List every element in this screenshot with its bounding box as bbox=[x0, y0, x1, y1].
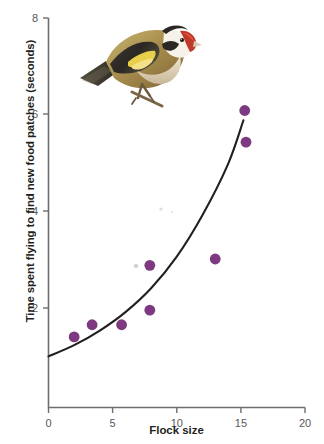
x-axis-title: Flock size bbox=[48, 424, 305, 436]
axis-lines bbox=[49, 18, 306, 408]
x-axis-ticks bbox=[49, 408, 306, 414]
scatter-plot: 8 6 4 2 0 5 10 15 20 bbox=[0, 0, 324, 444]
y-axis-title: Time spent flying to find new food patch… bbox=[24, 11, 36, 351]
data-point bbox=[210, 254, 221, 265]
data-point bbox=[144, 260, 155, 271]
data-point bbox=[87, 319, 98, 330]
data-point bbox=[69, 332, 80, 343]
data-point bbox=[144, 305, 155, 316]
paper-specks bbox=[134, 207, 173, 268]
data-point bbox=[241, 137, 252, 148]
figure-panel: 8 6 4 2 0 5 10 15 20 bbox=[0, 0, 324, 444]
fitted-curve bbox=[49, 120, 244, 356]
data-point bbox=[239, 105, 250, 116]
data-points-group bbox=[69, 105, 252, 342]
y-axis-ticks bbox=[43, 18, 49, 308]
data-point bbox=[116, 319, 127, 330]
